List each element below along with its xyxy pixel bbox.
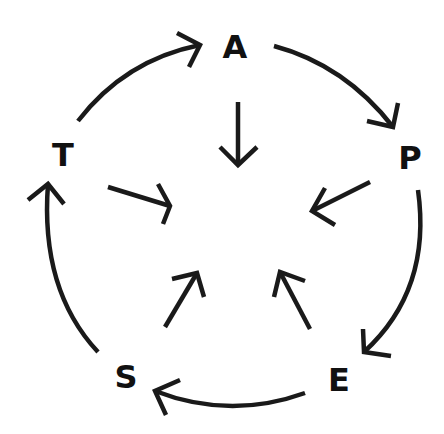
node-e-label: E (328, 361, 350, 399)
arrow-s-to-center (165, 273, 204, 327)
node-a-label: A (223, 28, 248, 66)
arrow-s-to-t (28, 184, 98, 352)
tapes-cycle-diagram: A P E S T (0, 0, 444, 434)
arrow-p-to-center (312, 182, 370, 225)
arrow-t-to-a (78, 33, 200, 121)
node-s-label: S (114, 358, 137, 396)
node-p-label: P (398, 139, 421, 177)
node-t-label: T (52, 136, 74, 174)
arrow-a-to-center (220, 102, 257, 165)
arrow-e-to-s (155, 380, 305, 415)
arrow-a-to-p (274, 46, 398, 127)
arrow-p-to-e (363, 190, 420, 356)
arrow-e-to-center (274, 272, 310, 329)
arrow-t-to-center (108, 184, 170, 224)
